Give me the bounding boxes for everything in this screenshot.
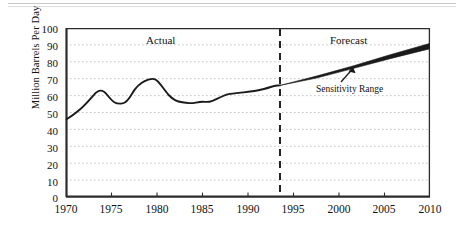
actual-demand-line [67, 79, 280, 120]
grid-lines [66, 45, 430, 180]
annotation-actual: Actual [146, 34, 175, 46]
chart-figure: Million Barrels Per Day 100 90 80 70 60 … [0, 0, 462, 231]
annotation-forecast: Forecast [330, 34, 367, 46]
annotation-sensitivity-range: Sensitivity Range [316, 84, 383, 94]
chart-plot-area [0, 0, 462, 231]
